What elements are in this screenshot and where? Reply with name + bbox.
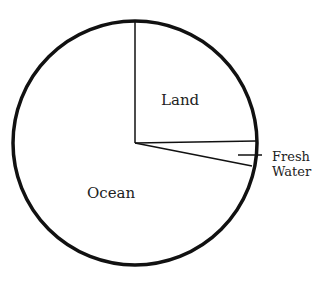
land-label: Land <box>161 91 200 109</box>
pie-chart: Land Fresh Water Ocean <box>0 0 316 281</box>
fresh-water-label-line2: Water <box>272 164 312 179</box>
ocean-label: Ocean <box>87 184 136 202</box>
fresh-water-label-line1: Fresh <box>272 149 311 164</box>
